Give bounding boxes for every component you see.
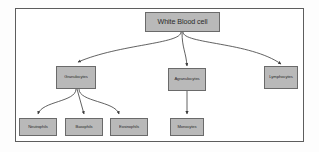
node-monocytes[interactable]: Monocytes	[170, 118, 204, 136]
node-eosinophils[interactable]: Eosinophils	[110, 118, 148, 136]
node-lymphocytes[interactable]: Lymphocytes	[264, 66, 298, 89]
node-label: White Blood cell	[157, 18, 209, 26]
edge-wbc-lymphocytes	[183, 32, 281, 64]
edge-granulocytes-neutrophils	[38, 89, 76, 114]
node-neutrophils[interactable]: Neutrophils	[19, 118, 57, 136]
node-label: Lymphocytes	[268, 75, 293, 79]
diagram-canvas: White Blood cell Granulocytes Agranulocy…	[0, 0, 319, 152]
node-granulocytes[interactable]: Granulocytes	[56, 66, 96, 89]
node-label: Agranulocytes	[173, 77, 200, 81]
node-label: Neutrophils	[27, 125, 49, 129]
edge-wbc-agranulocytes	[182, 32, 187, 66]
node-white-blood-cell[interactable]: White Blood cell	[145, 12, 220, 32]
node-label: Monocytes	[177, 125, 198, 129]
edge-granulocytes-eosinophils	[79, 89, 119, 114]
edge-wbc-granulocytes	[78, 32, 181, 62]
node-label: Basophils	[75, 125, 94, 129]
node-label: Granulocytes	[63, 75, 88, 79]
node-basophils[interactable]: Basophils	[65, 118, 103, 136]
node-label: Eosinophils	[118, 125, 140, 129]
node-agranulocytes[interactable]: Agranulocytes	[168, 68, 206, 91]
